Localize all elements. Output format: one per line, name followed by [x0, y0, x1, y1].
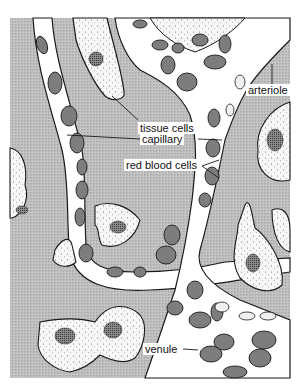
label-capillary: capillary [140, 133, 184, 145]
nucleus [89, 52, 103, 66]
label-venule: venule [143, 343, 179, 355]
label-arteriole: arteriole [246, 84, 290, 96]
label-red-blood-cells: red blood cells [124, 159, 199, 171]
capillary-bed-illustration: tissue cells capillary red blood cells a… [0, 0, 306, 388]
